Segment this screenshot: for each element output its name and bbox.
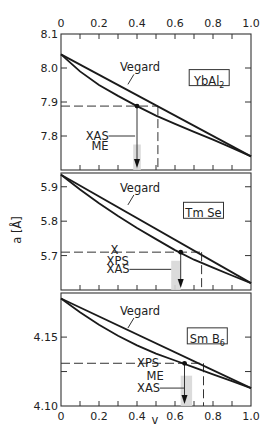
- panel-frame: [61, 34, 251, 170]
- y-axis-label: a [Å]: [9, 216, 24, 244]
- top-x-tick-label: 1.0: [242, 17, 260, 30]
- top-x-tick-label: 0.2: [90, 17, 108, 30]
- top-x-tick-label: 0.4: [128, 17, 146, 30]
- bottom-x-tick-label: 0.2: [90, 410, 108, 423]
- data-point-marker: [178, 250, 183, 255]
- top-x-tick-label: 0.8: [204, 17, 222, 30]
- vegard-leader: [128, 74, 134, 84]
- panel-smb6: 4.154.10VegardSm B6XPSMEXAS: [34, 293, 252, 413]
- y-tick-label: 4.10: [34, 400, 59, 413]
- top-x-tick-label: 0.6: [166, 17, 184, 30]
- x-axis-label: v: [152, 413, 159, 427]
- vegard-leader: [128, 318, 134, 328]
- uncertainty-band: [171, 261, 181, 290]
- bottom-x-axis: 00.20.40.60.81.0v: [58, 410, 260, 427]
- top-x-axis: 00.20.40.60.81.0: [58, 17, 260, 30]
- vegard-label: Vegard: [120, 181, 160, 195]
- y-axis-title: a [Å]: [9, 216, 24, 244]
- y-tick-label: 7.9: [41, 96, 59, 109]
- y-tick-label: 8.1: [41, 28, 59, 41]
- top-x-tick-label: 0: [58, 17, 65, 30]
- y-tick-label: 8.0: [41, 62, 59, 75]
- vegard-label: Vegard: [120, 60, 160, 74]
- bottom-x-tick-label: 0.4: [128, 410, 146, 423]
- bottom-x-tick-label: 0.8: [204, 410, 222, 423]
- vegard-label: Vegard: [120, 304, 160, 318]
- y-tick-label: 5.8: [41, 215, 59, 228]
- panels: 8.18.07.97.8VegardYbAl2XASME5.95.85.7Veg…: [34, 28, 252, 413]
- y-tick-label: 7.8: [41, 130, 59, 143]
- y-tick-label: 5.9: [41, 181, 59, 194]
- panel-ybal2: 8.18.07.97.8VegardYbAl2XASME: [41, 28, 252, 170]
- vegard-leader: [128, 195, 134, 205]
- data-point-marker: [135, 104, 140, 109]
- uncertainty-band: [181, 376, 192, 406]
- bottom-x-tick-label: 0.6: [166, 410, 184, 423]
- panel-tmse: 5.95.85.7VegardTm SeXXPSXAS: [41, 173, 252, 290]
- method-label-me: ME: [91, 139, 108, 153]
- y-tick-label: 5.7: [41, 250, 59, 263]
- bottom-x-tick-label: 1.0: [242, 410, 260, 423]
- y-tick-label: 4.15: [34, 331, 59, 344]
- compound-label: Sm B6: [190, 332, 225, 348]
- compound-label: Tm Se: [184, 206, 221, 220]
- lattice-constant-chart: 00.20.40.60.81.0 8.18.07.97.8VegardYbAl2…: [0, 0, 268, 446]
- bottom-x-tick-label: 0: [58, 410, 65, 423]
- data-point-marker: [182, 361, 187, 366]
- method-label-xas: XAS: [107, 262, 130, 276]
- method-label-xas: XAS: [137, 381, 160, 395]
